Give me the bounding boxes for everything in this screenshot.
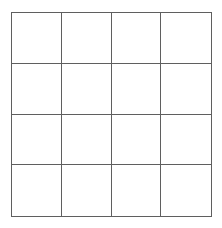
grid-cell-r1-c4: [161, 13, 211, 64]
grid-cell-r1-c1: [12, 13, 62, 64]
grid-cell-r3-c1: [12, 115, 62, 166]
grid-cell-r4-c1: [12, 165, 62, 216]
canvas: [0, 0, 222, 228]
grid-cell-r4-c4: [161, 165, 211, 216]
grid-cell-r3-c3: [112, 115, 162, 166]
grid-cell-r4-c2: [62, 165, 112, 216]
grid-cell-r1-c3: [112, 13, 162, 64]
grid-cell-r1-c2: [62, 13, 112, 64]
grid-cell-r2-c1: [12, 64, 62, 115]
grid-cell-r3-c4: [161, 115, 211, 166]
grid-cell-r2-c3: [112, 64, 162, 115]
grid-cell-r3-c2: [62, 115, 112, 166]
grid-cell-r4-c3: [112, 165, 162, 216]
grid-cell-r2-c4: [161, 64, 211, 115]
grid-cell-r2-c2: [62, 64, 112, 115]
grid-4x4: [11, 12, 212, 217]
